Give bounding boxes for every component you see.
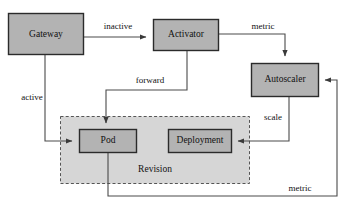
revision-group-label: Revision <box>138 164 172 174</box>
edge-activator-to-autoscaler: metric <box>218 21 285 56</box>
edge-activator-to-pod-path <box>106 50 187 123</box>
edge-activator-to-autoscaler-path <box>218 34 285 56</box>
node-autoscaler[interactable]: Autoscaler <box>252 64 319 97</box>
edge-label-metric-bottom: metric <box>289 183 312 193</box>
autoscaler-label: Autoscaler <box>264 74 306 84</box>
architecture-diagram: Revision inactive metric forward active … <box>0 0 346 205</box>
edge-activator-to-pod: forward <box>106 50 187 123</box>
edge-label-metric-top: metric <box>252 21 275 31</box>
activator-label: Activator <box>168 29 205 39</box>
edge-label-active: active <box>21 92 43 102</box>
edge-gateway-to-activator: inactive <box>84 21 146 37</box>
edge-label-inactive: inactive <box>104 21 133 31</box>
edge-label-scale: scale <box>264 112 282 122</box>
node-activator[interactable]: Activator <box>154 20 219 51</box>
node-pod[interactable]: Pod <box>80 130 137 153</box>
edge-label-forward: forward <box>136 75 165 85</box>
diagram-canvas: Revision inactive metric forward active … <box>0 0 346 205</box>
node-deployment[interactable]: Deployment <box>169 130 232 153</box>
gateway-label: Gateway <box>29 29 63 39</box>
node-gateway[interactable]: Gateway <box>9 14 84 55</box>
pod-label: Pod <box>101 135 116 145</box>
deployment-label: Deployment <box>177 135 224 145</box>
